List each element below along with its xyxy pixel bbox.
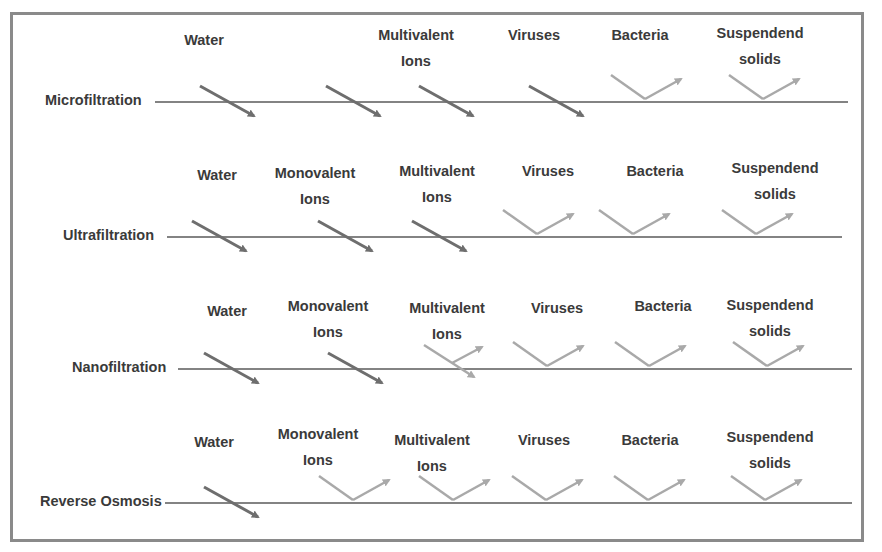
reject-arrow-icon xyxy=(722,210,756,234)
reject-arrow-icon xyxy=(733,342,767,366)
pass-arrow-icon xyxy=(192,221,246,251)
reject-arrow-icon xyxy=(546,480,582,500)
reject-arrow-icon xyxy=(611,75,645,99)
pass-arrow-icon xyxy=(200,86,254,116)
reject-arrow-icon xyxy=(756,214,792,234)
reject-arrow-icon xyxy=(649,346,685,366)
reject-arrow-icon xyxy=(453,480,489,500)
reject-arrow-icon xyxy=(731,476,765,500)
pass-arrow-icon xyxy=(412,221,466,251)
reject-arrow-icon xyxy=(633,214,669,234)
pass-arrow-icon xyxy=(204,353,258,383)
reject-arrow-icon xyxy=(512,476,546,500)
reject-arrow-icon xyxy=(763,79,799,99)
reject-arrow-icon xyxy=(599,210,633,234)
reject-arrow-icon xyxy=(729,75,763,99)
reject-arrow-icon xyxy=(503,210,537,234)
reject-arrow-icon xyxy=(615,342,649,366)
reject-arrow-icon xyxy=(767,346,803,366)
pass-arrow-icon xyxy=(318,221,372,251)
pass-arrow-icon xyxy=(529,86,583,116)
reject-arrow-icon xyxy=(353,480,389,500)
arrows-layer xyxy=(0,0,882,552)
reject-arrow-icon xyxy=(645,79,681,99)
reject-arrow-icon xyxy=(648,480,684,500)
pass-arrow-icon xyxy=(419,86,473,116)
pass-arrow-icon xyxy=(204,487,258,517)
pass-arrow-icon xyxy=(326,86,380,116)
partial-pass-arrow-icon xyxy=(424,345,474,377)
reject-arrow-icon xyxy=(319,476,353,500)
pass-arrow-icon xyxy=(328,353,382,383)
reject-arrow-icon xyxy=(537,214,573,234)
reject-arrow-icon xyxy=(547,346,583,366)
reject-arrow-icon xyxy=(614,476,648,500)
reject-arrow-icon xyxy=(513,342,547,366)
reject-arrow-icon xyxy=(452,347,482,363)
reject-arrow-icon xyxy=(419,476,453,500)
reject-arrow-icon xyxy=(765,480,801,500)
